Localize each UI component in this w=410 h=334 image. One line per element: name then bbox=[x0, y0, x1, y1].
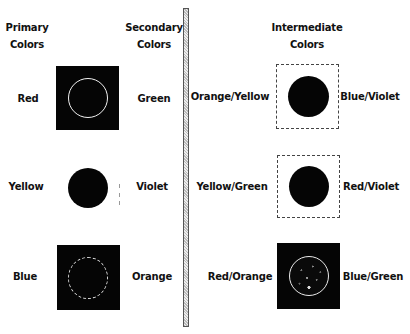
label-red-orange: Red/Orange bbox=[208, 268, 273, 285]
label-yellow: Yellow bbox=[9, 178, 44, 195]
label-blue: Blue bbox=[13, 268, 37, 285]
label-red: Red bbox=[17, 90, 38, 107]
tick-mark bbox=[119, 184, 120, 188]
swatch-blue bbox=[57, 245, 120, 310]
secondary-header-line2: Colors bbox=[125, 36, 182, 53]
swatch-red-orange bbox=[277, 243, 340, 309]
label-yellow-green: Yellow/Green bbox=[196, 178, 267, 195]
filled-circle-icon bbox=[289, 166, 329, 207]
swatch-orange-yellow bbox=[276, 64, 339, 129]
label-green: Green bbox=[138, 90, 171, 107]
primary-colors-header: Primary Colors bbox=[6, 19, 49, 53]
column-divider bbox=[183, 8, 189, 327]
secondary-header-line1: Secondary bbox=[125, 19, 182, 36]
intermediate-header-line2: Colors bbox=[271, 36, 342, 53]
circle-dotted-icon bbox=[68, 257, 108, 299]
circle-outline-icon bbox=[68, 78, 108, 118]
label-blue-green: Blue/Green bbox=[343, 268, 403, 285]
label-orange: Orange bbox=[132, 268, 172, 285]
intermediate-header-line1: Intermediate bbox=[271, 19, 342, 36]
swatch-yellow-filled-circle-icon bbox=[68, 168, 108, 208]
intermediate-colors-header: Intermediate Colors bbox=[271, 19, 342, 53]
tick-mark bbox=[119, 201, 120, 205]
primary-header-line2: Colors bbox=[6, 36, 49, 53]
label-orange-yellow: Orange/Yellow bbox=[191, 88, 269, 105]
filled-circle-icon bbox=[288, 76, 329, 117]
label-blue-violet: Blue/Violet bbox=[340, 88, 399, 105]
secondary-colors-header: Secondary Colors bbox=[125, 19, 182, 53]
swatch-red bbox=[56, 66, 119, 130]
speckled-circle-icon bbox=[289, 256, 329, 296]
swatch-yellow-green bbox=[277, 155, 340, 218]
label-violet: Violet bbox=[136, 178, 168, 195]
tick-mark bbox=[119, 193, 120, 197]
label-red-violet: Red/Violet bbox=[343, 178, 399, 195]
primary-header-line1: Primary bbox=[6, 19, 49, 36]
